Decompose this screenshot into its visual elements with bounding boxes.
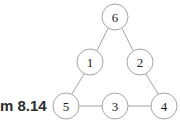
graph-node-6: 6 [102, 4, 128, 30]
edge-6-1 [97, 28, 108, 50]
node-label-2: 2 [137, 55, 144, 70]
edge-1-5 [72, 74, 85, 95]
graph-node-1: 1 [77, 49, 103, 75]
node-label-3: 3 [112, 99, 119, 114]
figure-caption: m 8.14 [0, 96, 58, 116]
graph-node-4: 4 [151, 93, 177, 119]
edge-2-4 [146, 74, 159, 95]
edge-6-2 [122, 28, 133, 50]
node-label-4: 4 [161, 99, 168, 114]
node-label-5: 5 [63, 99, 70, 114]
graph-node-3: 3 [102, 93, 128, 119]
graph-node-2: 2 [127, 49, 153, 75]
node-label-6: 6 [112, 10, 119, 25]
node-label-1: 1 [87, 55, 94, 70]
graph-nodes: 6 1 2 5 3 4 [53, 4, 177, 119]
